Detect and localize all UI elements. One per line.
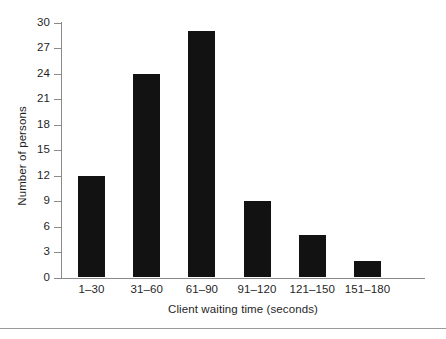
y-axis-tick-mark	[54, 278, 61, 279]
y-axis-tick-label: 12	[26, 170, 50, 182]
y-axis-tick-mark	[54, 201, 61, 202]
x-axis-tick-label: 151–180	[336, 283, 400, 296]
y-axis-tick-mark	[54, 23, 61, 24]
y-axis-tick-mark	[54, 125, 61, 126]
y-axis-tick-label: 15	[26, 144, 50, 156]
y-axis-tick-label: 18	[26, 119, 50, 131]
bar-chart-figure: 036912151821242730 1–3031–6061–9091–1201…	[0, 0, 446, 339]
bar	[354, 261, 381, 278]
y-axis-tick-mark	[54, 150, 61, 151]
y-axis-line	[61, 22, 62, 279]
bar	[78, 176, 105, 278]
y-axis-tick-mark	[54, 74, 61, 75]
y-axis-title: Number of persons	[16, 86, 28, 226]
y-axis-tick-label: 21	[26, 93, 50, 105]
y-axis-tick-mark	[54, 252, 61, 253]
y-axis-tick-label: 30	[26, 17, 50, 29]
y-axis-tick-mark	[54, 99, 61, 100]
bar	[299, 235, 326, 277]
y-axis-tick-mark	[54, 176, 61, 177]
y-axis-tick-label: 3	[26, 246, 50, 258]
y-axis-tick-mark	[54, 227, 61, 228]
y-axis-tick-mark	[54, 48, 61, 49]
x-axis-title: Client waiting time (seconds)	[61, 303, 425, 316]
x-axis-line	[61, 278, 425, 279]
footer-divider	[0, 328, 446, 329]
y-axis-tick-label: 0	[26, 272, 50, 284]
plot-area: 036912151821242730 1–3031–6061–9091–1201…	[0, 0, 446, 339]
bar	[244, 201, 271, 277]
bar	[133, 74, 160, 278]
y-axis-tick-label: 6	[26, 221, 50, 233]
y-axis-tick-label: 27	[26, 42, 50, 54]
y-axis-tick-label: 9	[26, 195, 50, 207]
bar	[188, 31, 215, 277]
y-axis-tick-label: 24	[26, 68, 50, 80]
